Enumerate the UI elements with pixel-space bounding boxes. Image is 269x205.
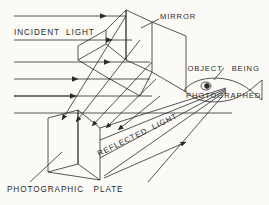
plate-bottom-edge <box>48 172 100 180</box>
plate-main-face <box>48 110 78 172</box>
mirror-flap-edge <box>78 60 152 96</box>
object-label-line2: PHOTOGRAPHED <box>186 92 261 101</box>
mirror-label: MIRROR <box>160 13 196 22</box>
reflected-ray-3 <box>92 62 152 126</box>
object-label-line1: OBJECT BEING <box>186 65 261 74</box>
plate-leader-line <box>30 152 62 182</box>
object-label: OBJECT BEING PHOTOGRAPHED <box>186 47 261 119</box>
photographic-plate-label: PHOTOGRAPHIC PLATE <box>7 185 123 195</box>
optics-diagram: INCIDENT LIGHT MIRROR OBJECT BEING PHOTO… <box>0 0 269 205</box>
photographic-plate <box>30 110 100 182</box>
incident-light-label: INCIDENT LIGHT <box>14 28 95 38</box>
